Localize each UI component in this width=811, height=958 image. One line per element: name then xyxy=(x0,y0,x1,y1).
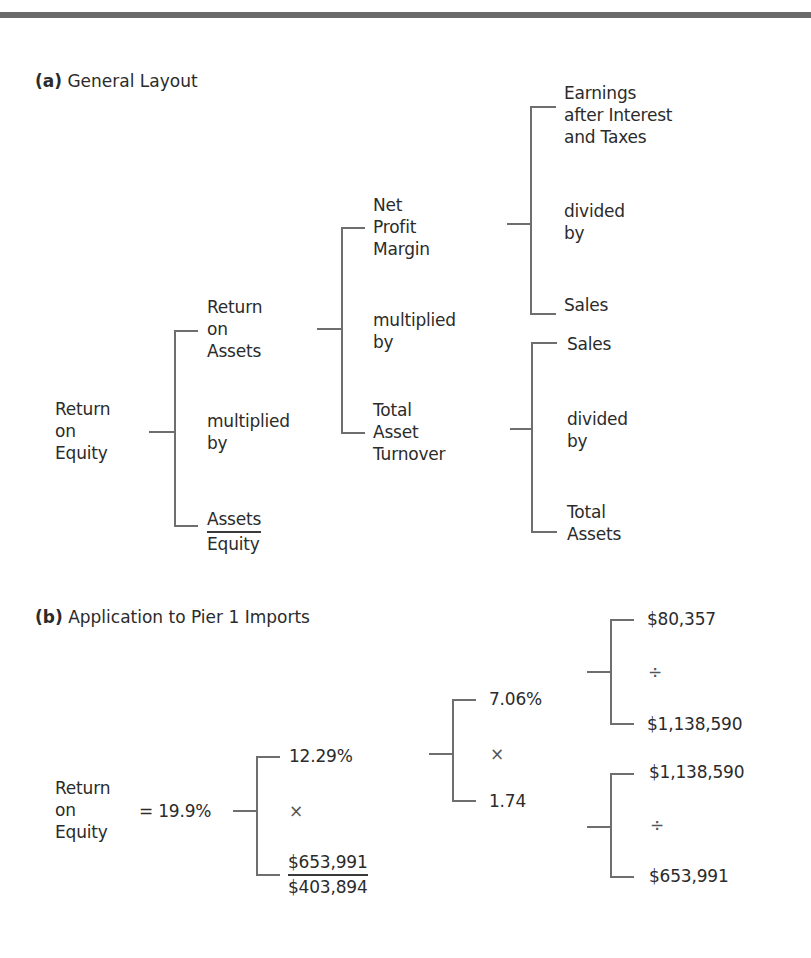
a-bracket3u-vertical xyxy=(530,106,532,315)
a-l3u-earnings: Earnings after Interest and Taxes xyxy=(564,82,672,148)
a-l3u-sales: Sales xyxy=(564,294,608,316)
b-bracket3l-bottom-tick xyxy=(610,876,634,878)
b-l1-multiply-sign: × xyxy=(289,800,303,822)
a-l3l-total-assets: Total Assets xyxy=(567,501,621,545)
a-bracket1-top-tick xyxy=(174,330,198,332)
section-a-title: General Layout xyxy=(67,71,197,91)
b-l3u-divide-sign: ÷ xyxy=(648,661,662,683)
b-bracket3u-bottom-tick xyxy=(610,723,634,725)
a-bracket3l-stem xyxy=(510,428,533,430)
a-l1-denominator: Equity xyxy=(207,534,260,554)
b-bracket3u-vertical xyxy=(610,619,612,725)
b-l2-npm-value: 7.06% xyxy=(489,688,542,710)
a-bracket1-stem xyxy=(149,431,175,433)
a-bracket2-top-tick xyxy=(341,227,365,229)
a-bracket3u-stem xyxy=(507,223,532,225)
a-root-roe: Return on Equity xyxy=(55,398,110,464)
a-bracket3l-bottom-tick xyxy=(531,531,557,533)
b-root-value: = 19.9% xyxy=(139,800,211,822)
b-bracket1-vertical xyxy=(256,756,258,876)
b-bracket2-top-tick xyxy=(452,699,476,701)
b-bracket2-stem xyxy=(429,753,454,755)
a-l2-net-profit-margin: Net Profit Margin xyxy=(373,194,430,260)
b-bracket3l-vertical xyxy=(610,773,612,878)
section-b-title: Application to Pier 1 Imports xyxy=(68,607,310,627)
a-bracket2-stem xyxy=(317,328,343,330)
b-l3l-sales-value: $1,138,590 xyxy=(649,761,744,783)
a-l2-multiplied-by: multiplied by xyxy=(373,309,456,353)
top-rule xyxy=(0,12,811,18)
b-bracket3l-stem xyxy=(587,826,612,828)
a-l1-assets-over-equity: Assets Equity xyxy=(207,508,261,555)
a-l1-numerator: Assets xyxy=(207,508,261,533)
b-l1-leverage-fraction: $653,991 $403,894 xyxy=(288,851,368,898)
a-bracket2-bottom-tick xyxy=(341,432,365,434)
a-l3u-divided-by: divided by xyxy=(564,200,625,244)
b-bracket1-stem xyxy=(233,810,258,812)
a-l1-multiplied-by: multiplied by xyxy=(207,410,290,454)
b-bracket2-bottom-tick xyxy=(452,800,476,802)
a-l3l-sales: Sales xyxy=(567,333,611,355)
a-bracket3u-bottom-tick xyxy=(530,313,556,315)
section-b-label: (b) xyxy=(35,607,63,627)
b-l2-multiply-sign: × xyxy=(490,743,504,765)
b-l3l-total-assets-value: $653,991 xyxy=(649,865,729,887)
b-l3l-divide-sign: ÷ xyxy=(650,814,664,836)
a-bracket3l-vertical xyxy=(531,342,533,533)
b-bracket3u-stem xyxy=(587,671,612,673)
a-l3l-divided-by: divided by xyxy=(567,408,628,452)
a-bracket3l-top-tick xyxy=(531,342,557,344)
a-bracket1-bottom-tick xyxy=(174,525,198,527)
section-b-heading: (b) Application to Pier 1 Imports xyxy=(35,606,310,628)
b-l1-roa-value: 12.29% xyxy=(289,745,353,767)
b-bracket1-bottom-tick xyxy=(256,874,280,876)
b-l2-tat-value: 1.74 xyxy=(489,790,526,812)
b-l1-numerator: $653,991 xyxy=(288,851,368,876)
b-bracket2-vertical xyxy=(452,699,454,802)
b-root-roe: Return on Equity xyxy=(55,777,110,843)
a-bracket2-vertical xyxy=(341,227,343,434)
b-l3u-earnings-value: $80,357 xyxy=(647,608,716,630)
b-l3u-sales-value: $1,138,590 xyxy=(647,713,742,735)
a-l2-total-asset-turnover: Total Asset Turnover xyxy=(373,399,445,465)
b-bracket3u-top-tick xyxy=(610,619,634,621)
a-l1-return-on-assets: Return on Assets xyxy=(207,296,262,362)
b-bracket1-top-tick xyxy=(256,756,280,758)
a-bracket1-vertical xyxy=(174,330,176,527)
section-a-label: (a) xyxy=(35,71,62,91)
b-bracket3l-top-tick xyxy=(610,773,634,775)
a-bracket3u-top-tick xyxy=(530,106,556,108)
b-l1-denominator: $403,894 xyxy=(288,877,368,897)
section-a-heading: (a) General Layout xyxy=(35,70,198,92)
